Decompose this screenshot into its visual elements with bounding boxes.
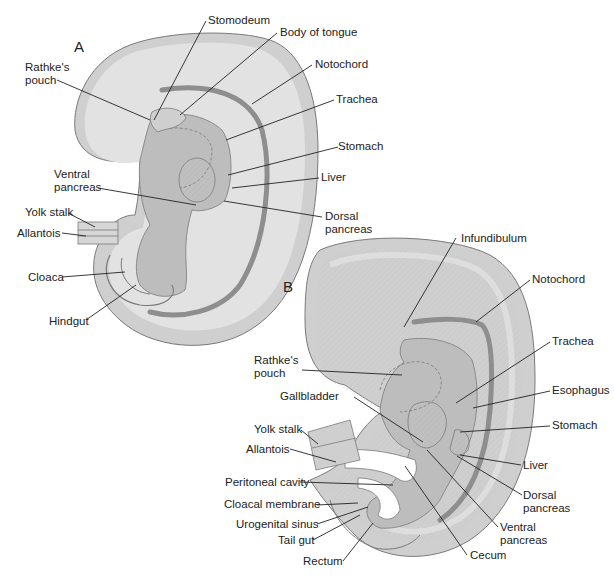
label-b-peritoneal-cavity: Peritoneal cavity xyxy=(225,476,309,489)
label-b-rathkes-pouch: Rathke's pouch xyxy=(254,354,298,380)
label-b-tail-gut: Tail gut xyxy=(278,534,314,547)
label-b-infundibulum: Infundibulum xyxy=(461,232,527,245)
label-a-dorsal-pancreas: Dorsal pancreas xyxy=(325,210,372,236)
label-b-notochord: Notochord xyxy=(532,273,585,286)
label-b-cecum: Cecum xyxy=(470,549,506,562)
label-b-urogenital-sinus: Urogenital sinus xyxy=(236,518,318,531)
label-a-liver: Liver xyxy=(321,171,346,184)
panel-b-label: B xyxy=(283,278,293,295)
panel-b-embryo xyxy=(305,238,535,556)
label-b-cloacal-membrane: Cloacal membrane xyxy=(224,498,321,511)
label-b-stomach: Stomach xyxy=(552,419,597,432)
label-a-trachea: Trachea xyxy=(336,93,378,106)
label-a-yolk-stalk: Yolk stalk xyxy=(25,206,73,219)
label-a-rathkes-pouch: Rathke's pouch xyxy=(25,61,69,87)
label-b-liver: Liver xyxy=(523,459,548,472)
embryo-gut-diagram xyxy=(0,0,614,578)
label-a-hindgut: Hindgut xyxy=(49,315,89,328)
label-b-dorsal-pancreas: Dorsal pancreas xyxy=(523,489,570,515)
panel-a-embryo xyxy=(75,33,318,345)
label-a-allantois: Allantois xyxy=(17,227,60,240)
label-b-yolk-stalk: Yolk stalk xyxy=(254,423,302,436)
label-a-cloaca: Cloaca xyxy=(28,271,64,284)
label-b-esophagus: Esophagus xyxy=(552,384,610,397)
label-a-ventral-pancreas: Ventral pancreas xyxy=(54,168,101,194)
label-a-stomodeum: Stomodeum xyxy=(208,14,270,27)
label-b-ventral-pancreas: Ventral pancreas xyxy=(500,521,547,547)
label-a-notochord: Notochord xyxy=(315,58,368,71)
label-b-trachea: Trachea xyxy=(552,335,594,348)
panel-a-label: A xyxy=(74,38,84,55)
label-a-body-of-tongue: Body of tongue xyxy=(280,26,357,39)
clipped-caption-row xyxy=(0,566,614,578)
label-a-stomach: Stomach xyxy=(338,140,383,153)
label-b-allantois: Allantois xyxy=(246,443,289,456)
label-b-gallbladder: Gallbladder xyxy=(280,390,339,403)
